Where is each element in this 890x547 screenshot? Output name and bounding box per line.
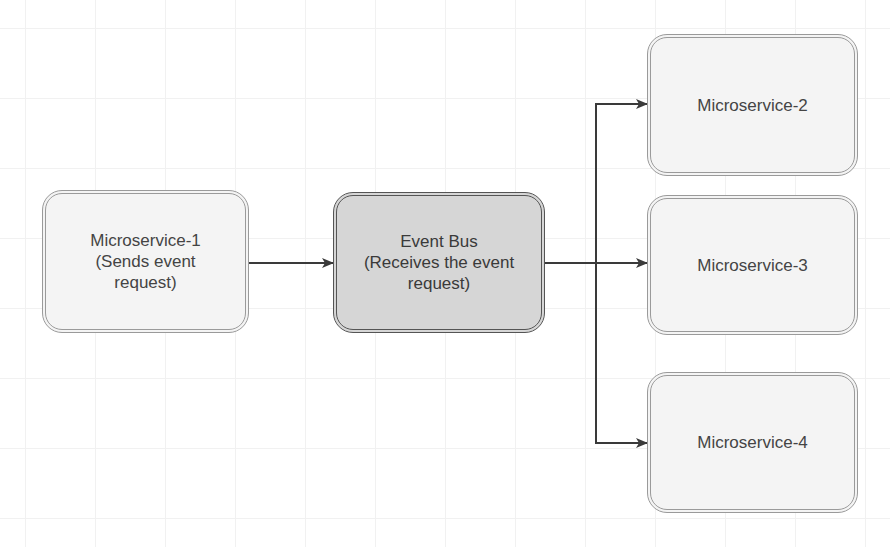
node-microservice-3-label: Microservice-3 bbox=[697, 255, 808, 276]
node-microservice-4[interactable]: Microservice-4 bbox=[647, 372, 858, 513]
node-event-bus[interactable]: Event Bus (Receives the event request) bbox=[333, 192, 545, 333]
node-event-bus-label: Event Bus (Receives the event request) bbox=[364, 231, 514, 294]
node-microservice-2[interactable]: Microservice-2 bbox=[647, 34, 858, 176]
node-microservice-2-label: Microservice-2 bbox=[697, 95, 808, 116]
node-microservice-3[interactable]: Microservice-3 bbox=[647, 195, 858, 335]
node-microservice-1-label: Microservice-1 (Sends event request) bbox=[90, 230, 201, 293]
node-microservice-4-label: Microservice-4 bbox=[697, 432, 808, 453]
node-microservice-1[interactable]: Microservice-1 (Sends event request) bbox=[42, 190, 249, 333]
